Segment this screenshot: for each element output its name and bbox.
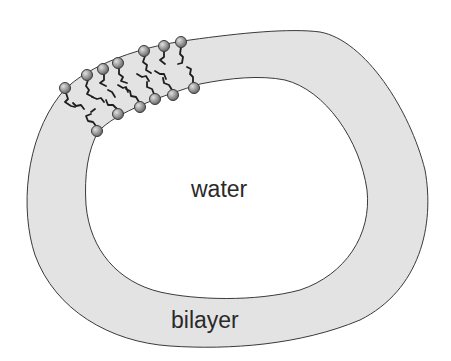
bilayer-label: bilayer <box>171 309 239 332</box>
water-label: water <box>191 178 247 201</box>
vesicle-diagram: water bilayer <box>0 0 451 361</box>
